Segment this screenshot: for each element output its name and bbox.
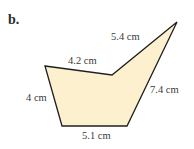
side-label-left: 4 cm [26, 93, 47, 104]
side-label-top-left: 4.2 cm [68, 56, 97, 67]
figure-b: b. 4.2 cm 5.4 cm 7.4 cm 5.1 cm 4 cm [0, 0, 194, 149]
pentagon-diagram [0, 0, 194, 149]
side-label-top-right: 5.4 cm [111, 32, 140, 43]
side-label-right: 7.4 cm [150, 85, 179, 96]
side-label-bottom: 5.1 cm [82, 131, 111, 142]
